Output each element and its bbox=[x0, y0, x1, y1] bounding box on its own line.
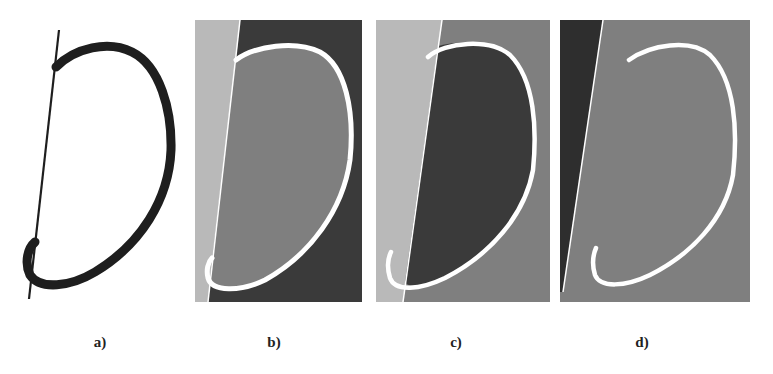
panel-b bbox=[195, 20, 362, 302]
panel-c bbox=[376, 20, 550, 302]
panel-label-d: d) bbox=[622, 334, 662, 351]
panel-label-b: b) bbox=[254, 334, 294, 351]
d-contour bbox=[27, 46, 171, 285]
panel-a bbox=[27, 30, 171, 299]
figure bbox=[0, 0, 773, 374]
panel-label-a: a) bbox=[80, 334, 120, 351]
panel-d bbox=[560, 20, 750, 302]
panel-label-c: c) bbox=[436, 334, 476, 351]
